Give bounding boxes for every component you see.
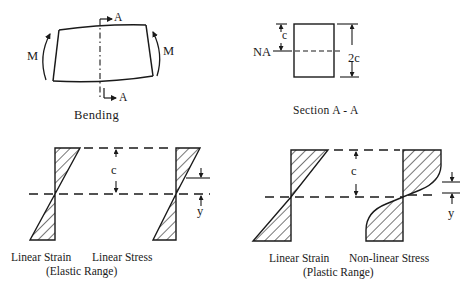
elastic-y-label: y <box>197 205 203 218</box>
section-caption: Section A - A <box>293 105 359 117</box>
plastic-y-label: y <box>448 207 454 220</box>
plastic-y-dimension <box>442 172 460 204</box>
elastic-stress-diagram <box>153 148 200 240</box>
plastic-strain-diagram <box>253 150 328 241</box>
moment-arrow-left-icon <box>43 34 50 80</box>
section-top-label: A <box>114 12 122 24</box>
bending-caption: Bending <box>74 109 119 122</box>
plastic-c-label: c <box>351 165 357 178</box>
c-label: c <box>282 30 287 42</box>
elastic-y-dimension <box>186 168 210 206</box>
bending-beam <box>53 25 153 82</box>
2c-label: 2c <box>348 52 360 65</box>
section-bottom-label: A <box>119 92 127 104</box>
plastic-stress-label: Non-linear Stress <box>349 253 429 265</box>
neutral-axis-label: NA <box>253 46 271 59</box>
plastic-strain-label: Linear Strain <box>269 253 329 265</box>
plastic-range-label: (Plastic Range) <box>303 267 374 279</box>
section-arrow-bottom <box>104 88 116 98</box>
elastic-c-label: c <box>111 164 117 177</box>
elastic-stress-label: Linear Stress <box>92 252 152 264</box>
beam-bottom-edge <box>53 76 153 82</box>
moment-arrow-right-icon <box>153 32 160 76</box>
moment-left-label: M <box>27 50 38 63</box>
elastic-strain-label: Linear Strain <box>11 252 71 264</box>
moment-right-label: M <box>163 45 174 58</box>
diagram-canvas <box>0 0 472 290</box>
beam-left-edge <box>53 30 59 81</box>
beam-right-edge <box>146 25 153 76</box>
elastic-range-label: (Elastic Range) <box>46 266 117 278</box>
beam-top-edge <box>59 25 146 30</box>
